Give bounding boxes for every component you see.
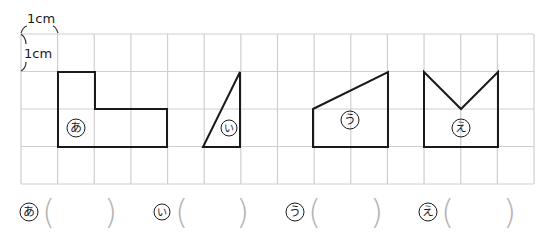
answer-u[interactable]: う ( ) [286,192,383,232]
answer-a-close-paren: ) [104,192,117,232]
answer-e-label: え [422,205,434,219]
answer-i-label: い [157,207,167,218]
answer-i-open-paren: ( [175,192,188,232]
answer-u-label: う [289,205,301,219]
answer-a-label: あ [23,205,35,219]
answer-i-close-paren: ) [236,192,249,232]
answer-a-open-paren: ( [42,192,55,232]
answer-a[interactable]: あ ( ) [20,192,117,232]
answer-e[interactable]: え ( ) [419,192,516,232]
unit-annotation-horizontal: 1cm [21,11,58,33]
answer-e-field[interactable] [457,198,503,226]
shape-i-label: い [224,123,234,134]
horizontal-unit-label: 1cm [27,11,55,26]
answer-u-field[interactable] [324,198,370,226]
area-grid-diagram: 1cm 1cm あ い う え あ ( [0,0,552,239]
shape-e-label: え [455,121,467,135]
shape-a-label: あ [70,121,82,135]
vertical-unit-label: 1cm [24,46,52,61]
answer-e-close-paren: ) [503,192,516,232]
answer-i[interactable]: い ( ) [154,192,249,232]
answer-a-field[interactable] [58,198,104,226]
answer-i-field[interactable] [191,198,237,226]
answer-u-open-paren: ( [308,192,321,232]
horizontal-bracket-icon [21,26,58,33]
answer-e-open-paren: ( [441,192,454,232]
answer-u-close-paren: ) [370,192,383,232]
shape-u-label: う [344,113,356,127]
answer-row: あ ( ) い ( ) う ( ) え ( ) [20,192,516,232]
unit-annotation-vertical: 1cm [21,34,52,71]
